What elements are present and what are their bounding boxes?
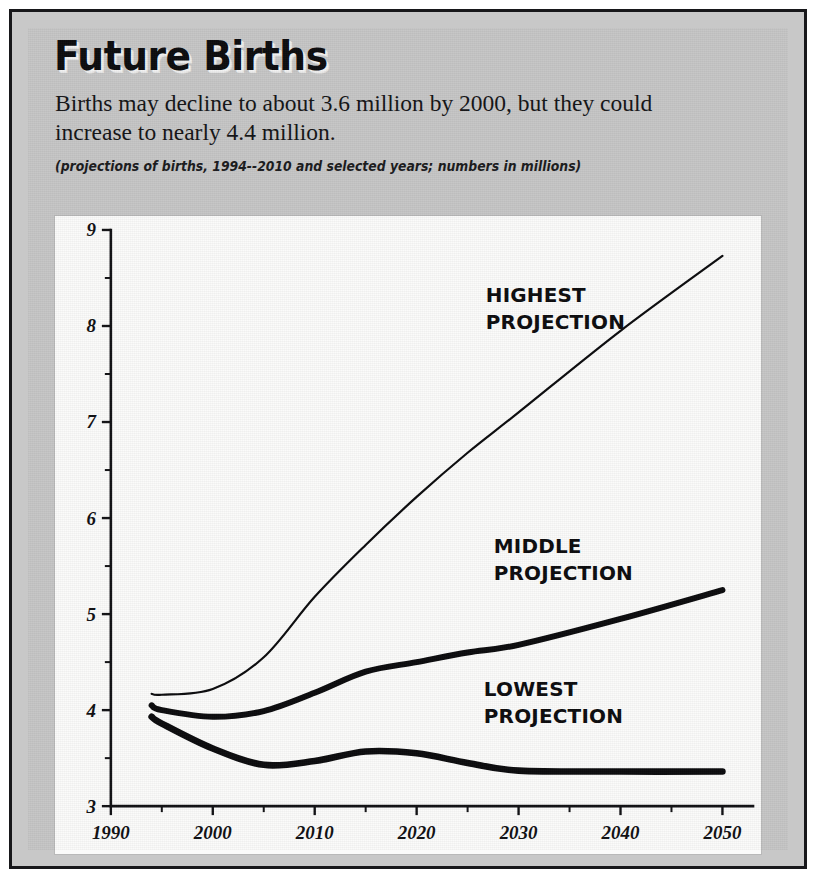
y-tick-label: 3: [85, 796, 95, 817]
figure-caption: (projections of births, 1994--2010 and s…: [55, 158, 711, 174]
y-tick-label: 4: [85, 700, 95, 721]
chart-series-labels: HIGHESTPROJECTIONMIDDLEPROJECTIONLOWESTP…: [484, 283, 633, 729]
x-tick-label: 2000: [193, 822, 232, 843]
x-tick-label: 2020: [397, 822, 436, 843]
y-tick-label: 6: [86, 508, 96, 529]
chart-plot-area: 34567891990200020102020203020402050 HIGH…: [54, 215, 762, 855]
series-label-lowest-line2: PROJECTION: [484, 704, 623, 728]
series-line-middle: [152, 590, 723, 717]
figure-header: Future Births Births may decline to abou…: [54, 36, 768, 174]
series-line-lowest: [152, 717, 723, 772]
series-line-highest: [152, 256, 723, 695]
chart-series-group: [152, 256, 723, 772]
x-tick-label: 1990: [92, 822, 130, 843]
x-tick-label: 2030: [499, 822, 538, 843]
chart-axes: 34567891990200020102020203020402050: [85, 219, 753, 843]
series-label-highest-line2: PROJECTION: [486, 310, 625, 334]
y-tick-label: 9: [86, 219, 96, 240]
page-title: Future Births: [54, 36, 725, 78]
x-tick-label: 2050: [703, 822, 742, 843]
series-label-middle: MIDDLE: [494, 534, 582, 558]
y-tick-label: 8: [86, 315, 96, 336]
figure-deck: Births may decline to about 3.6 million …: [55, 89, 655, 149]
series-label-highest: HIGHEST: [486, 283, 586, 307]
y-tick-label: 7: [86, 412, 97, 433]
x-tick-label: 2040: [601, 822, 640, 843]
series-label-middle-line2: PROJECTION: [494, 561, 633, 585]
line-chart-svg: 34567891990200020102020203020402050 HIGH…: [55, 216, 761, 854]
series-label-lowest: LOWEST: [484, 677, 578, 701]
x-tick-label: 2010: [295, 822, 334, 843]
chart-axis-lines: [111, 230, 753, 806]
figure-container: Future Births Births may decline to abou…: [0, 0, 816, 878]
y-tick-label: 5: [86, 604, 95, 625]
figure-border-frame: Future Births Births may decline to abou…: [9, 9, 807, 869]
figure-panel: Future Births Births may decline to abou…: [28, 28, 788, 850]
